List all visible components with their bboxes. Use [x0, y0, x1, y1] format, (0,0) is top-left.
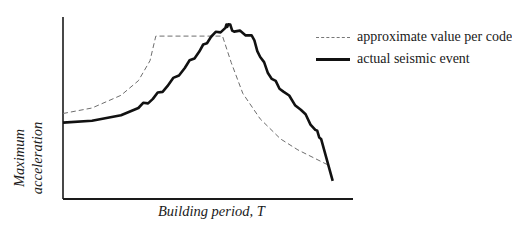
- x-axis-label: Building period, T: [158, 203, 265, 220]
- legend-item-approximate: approximate value per code: [316, 26, 512, 48]
- dashed-line-swatch-icon: [316, 37, 350, 38]
- legend-label: approximate value per code: [357, 29, 512, 45]
- y-axis-label: Maximum acceleration: [6, 108, 50, 208]
- legend-label: actual seismic event: [357, 51, 470, 67]
- y-axis-label-line2: acceleration: [28, 122, 46, 194]
- legend-item-actual: actual seismic event: [316, 48, 512, 70]
- series-approximate-code-line: [63, 36, 327, 164]
- solid-line-swatch-icon: [316, 58, 350, 61]
- legend: approximate value per code actual seismi…: [316, 26, 512, 70]
- y-axis-label-line1: Maximum: [10, 122, 28, 194]
